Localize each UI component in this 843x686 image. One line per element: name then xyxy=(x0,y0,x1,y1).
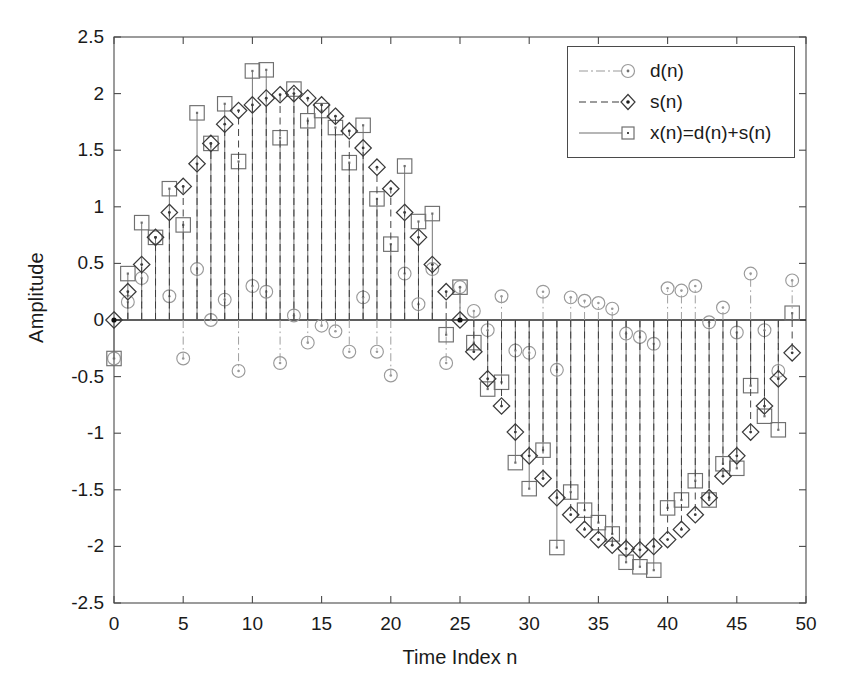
diamond-marker xyxy=(300,90,316,106)
diamond-marker xyxy=(383,180,399,196)
legend-label-sn: s(n) xyxy=(650,92,683,111)
legend-item-xn[interactable]: x(n)=d(n)+s(n) xyxy=(578,117,784,148)
circle-marker xyxy=(661,282,674,295)
legend-sample-diamond-icon xyxy=(578,91,640,113)
diamond-marker xyxy=(369,159,385,175)
legend-label-dn: d(n) xyxy=(650,61,684,80)
legend-sample-square-icon xyxy=(578,122,640,144)
legend-sample-circle-icon xyxy=(578,60,640,82)
legend-label-xn: x(n)=d(n)+s(n) xyxy=(650,123,771,142)
circle-marker xyxy=(744,267,757,280)
circle-marker xyxy=(675,284,688,297)
circle-marker xyxy=(232,365,245,378)
legend-item-dn[interactable]: d(n) xyxy=(578,55,784,86)
diamond-marker xyxy=(341,123,357,139)
diamond-marker xyxy=(493,398,509,414)
chart-legend: d(n) s(n) x(n)=d(n)+s(n) xyxy=(567,46,795,158)
circle-marker xyxy=(371,345,384,358)
circle-marker xyxy=(343,345,356,358)
diamond-marker xyxy=(673,521,689,537)
diamond-marker xyxy=(438,284,454,300)
chart-figure: Amplitude Time Index n -2.5-2-1.5-1-0.50… xyxy=(0,0,843,686)
legend-item-sn[interactable]: s(n) xyxy=(578,86,784,117)
diamond-marker xyxy=(576,521,592,537)
circle-marker xyxy=(578,294,591,307)
